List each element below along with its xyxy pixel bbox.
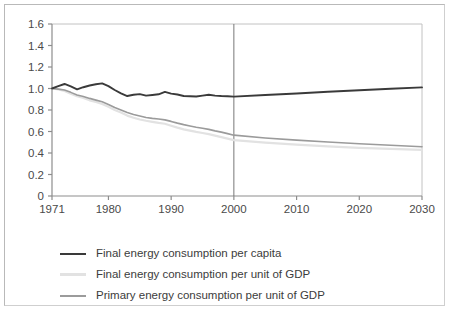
svg-text:0.6: 0.6 [28, 126, 44, 138]
data-series [52, 83, 422, 149]
svg-text:1980: 1980 [96, 203, 122, 215]
x-axis-tick-labels: 1971198019902000201020202030 [39, 203, 435, 215]
svg-text:2020: 2020 [346, 203, 372, 215]
y-axis-tick-labels: 1.61.41.21.00.80.60.40.20 [28, 18, 45, 202]
svg-text:0: 0 [38, 190, 44, 202]
svg-text:1.4: 1.4 [28, 40, 45, 52]
svg-text:2010: 2010 [284, 203, 310, 215]
svg-text:2030: 2030 [409, 203, 435, 215]
legend-label: Primary energy consumption per unit of G… [96, 290, 325, 302]
svg-text:2000: 2000 [221, 203, 247, 215]
legend-swatch-primary-per-gdp [60, 295, 86, 297]
svg-text:0.8: 0.8 [28, 104, 44, 116]
svg-text:1990: 1990 [158, 203, 184, 215]
chart-legend: Final energy consumption per capita Fina… [60, 243, 390, 306]
legend-item: Primary energy consumption per unit of G… [60, 285, 390, 306]
legend-item: Final energy consumption per unit of GDP [60, 264, 390, 285]
svg-text:1.0: 1.0 [28, 83, 44, 95]
chart-figure: 1.61.41.21.00.80.60.40.20 19711980199020… [0, 0, 450, 311]
legend-swatch-final-per-capita [60, 253, 86, 255]
legend-label: Final energy consumption per capita [96, 248, 281, 260]
legend-label: Final energy consumption per unit of GDP [96, 269, 310, 281]
svg-text:0.4: 0.4 [28, 147, 45, 159]
svg-text:0.2: 0.2 [28, 169, 44, 181]
svg-text:1.2: 1.2 [28, 61, 44, 73]
svg-text:1971: 1971 [39, 203, 65, 215]
svg-text:1.6: 1.6 [28, 18, 44, 30]
axes [48, 24, 422, 200]
legend-item: Final energy consumption per capita [60, 243, 390, 264]
legend-swatch-final-per-gdp [60, 273, 86, 276]
